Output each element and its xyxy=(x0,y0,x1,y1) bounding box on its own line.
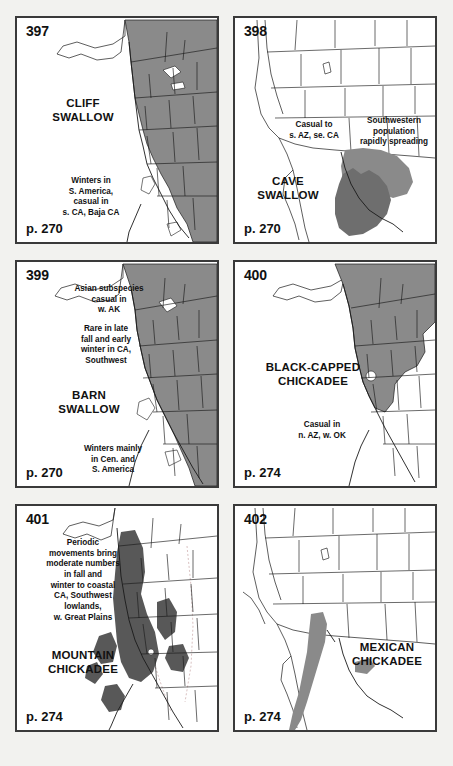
range-map-sheet: 397 CLIFF SWALLOW Winters in S. America,… xyxy=(0,0,453,766)
panel-number: 399 xyxy=(26,267,49,283)
range-map-402 xyxy=(235,506,435,730)
page-reference: p. 270 xyxy=(26,221,63,236)
annotation-casual: Casual to s. AZ, se. CA xyxy=(277,120,351,141)
species-name: BLACK-CAPPED CHICKADEE xyxy=(249,360,377,388)
species-name: BARN SWALLOW xyxy=(39,388,139,416)
map-panel-397[interactable]: 397 CLIFF SWALLOW Winters in S. America,… xyxy=(15,16,219,244)
panel-number: 398 xyxy=(244,23,267,39)
species-name: CAVE SWALLOW xyxy=(245,174,331,202)
species-name: MOUNTAIN CHICKADEE xyxy=(27,648,139,676)
panel-number: 401 xyxy=(26,511,49,527)
page-reference: p. 274 xyxy=(26,709,63,724)
page-reference: p. 270 xyxy=(244,221,281,236)
map-panel-401[interactable]: 401 MOUNTAIN CHICKADEE Periodic movement… xyxy=(15,504,219,732)
map-panel-grid: 397 CLIFF SWALLOW Winters in S. America,… xyxy=(15,16,438,732)
species-name: MEXICAN CHICKADEE xyxy=(341,640,433,668)
map-panel-398[interactable]: 398 CAVE SWALLOW Casual to s. AZ, se. CA… xyxy=(233,16,437,244)
annotation-winter: Winters in S. America, casual in s. CA, … xyxy=(35,176,147,219)
annotation-casual: Casual in n. AZ, w. OK xyxy=(277,420,367,441)
panel-number: 402 xyxy=(244,511,267,527)
annotation-spreading: Southwestern population rapidly spreadin… xyxy=(353,116,435,148)
map-panel-400[interactable]: 400 BLACK-CAPPED CHICKADEE Casual in n. … xyxy=(233,260,437,488)
map-panel-399[interactable]: 399 BARN SWALLOW Asian subspecies casual… xyxy=(15,260,219,488)
annotation-periodic: Periodic movements bring moderate number… xyxy=(25,538,141,623)
page-reference: p. 274 xyxy=(244,709,281,724)
annotation-asian: Asian subspecies casual in w. AK xyxy=(59,284,159,316)
species-name: CLIFF SWALLOW xyxy=(31,96,135,124)
map-panel-402[interactable]: 402 MEXICAN CHICKADEE p. 274 xyxy=(233,504,437,732)
annotation-rare: Rare in late fall and early winter in CA… xyxy=(59,324,153,367)
annotation-winter: Winters mainly in Cen. and S. America xyxy=(65,444,161,476)
panel-number: 400 xyxy=(244,267,267,283)
page-reference: p. 274 xyxy=(244,465,281,480)
panel-number: 397 xyxy=(26,23,49,39)
page-reference: p. 270 xyxy=(26,465,63,480)
